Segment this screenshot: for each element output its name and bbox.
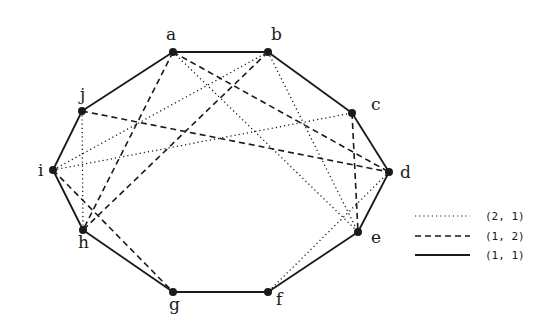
vertex-label-d: d [400,162,411,182]
edge-dotted-a-e [173,52,358,232]
legend-solid-label: (1, 1) [485,249,525,262]
edge-solid-g-h [83,230,173,292]
vertex-b [264,48,272,56]
solid-edges [53,52,389,292]
vertex-a [169,48,177,56]
vertex-label-g: g [169,294,180,314]
edge-dotted-j-h [82,111,83,230]
vertex-label-i: i [38,160,44,180]
edge-solid-h-i [53,170,83,230]
vertex-label-h: h [78,232,89,252]
vertices: abcdefghij [38,24,411,314]
edge-solid-c-d [352,113,389,172]
vertex-label-a: a [166,24,176,44]
legend-dotted-label: (2, 1) [485,210,525,223]
vertex-label-e: e [371,227,381,247]
edge-dotted-b-e [268,52,358,232]
edge-solid-j-a [82,52,173,111]
vertex-f [264,288,272,296]
dashed-edges [53,52,389,292]
graph-diagram: abcdefghij (2, 1) (1, 2) (1, 1) [0,0,549,334]
legend: (2, 1) (1, 2) (1, 1) [415,210,525,262]
edge-dashed-a-d [173,52,389,172]
vertex-label-j: j [78,84,85,104]
edge-dashed-a-h [83,52,173,230]
vertex-i [49,166,57,174]
vertex-label-c: c [371,94,381,114]
vertex-label-b: b [271,24,282,44]
edge-solid-d-e [358,172,389,232]
edge-solid-e-f [268,232,358,292]
edge-solid-i-j [53,111,82,170]
vertex-d [385,168,393,176]
edge-dashed-c-e [352,113,358,232]
edge-solid-b-c [268,52,352,113]
vertex-j [78,107,86,115]
edge-dashed-i-g [53,170,173,292]
vertex-c [348,109,356,117]
edge-dashed-b-h [83,52,268,230]
legend-dashed-label: (1, 2) [485,230,525,243]
vertex-e [354,228,362,236]
edge-dotted-i-c [53,113,352,170]
dotted-edges [53,52,389,292]
vertex-label-f: f [276,289,284,309]
